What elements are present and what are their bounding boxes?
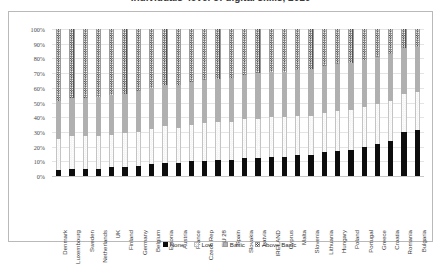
bar-column[interactable] bbox=[56, 29, 61, 176]
bar-segment-none[interactable] bbox=[322, 152, 327, 176]
bar-segment-basic[interactable] bbox=[215, 79, 220, 122]
bar-segment-none[interactable] bbox=[215, 160, 220, 176]
bar-column[interactable] bbox=[189, 29, 194, 176]
bar-segment-above-basic[interactable] bbox=[415, 29, 420, 47]
bar-segment-low[interactable] bbox=[162, 126, 167, 163]
bar-column[interactable] bbox=[242, 29, 247, 176]
bar-column[interactable] bbox=[335, 29, 340, 176]
bar-segment-basic[interactable] bbox=[415, 47, 420, 93]
bar-segment-low[interactable] bbox=[136, 132, 141, 166]
bar-column[interactable] bbox=[255, 29, 260, 176]
bar-segment-basic[interactable] bbox=[202, 80, 207, 123]
bar-segment-above-basic[interactable] bbox=[136, 29, 141, 91]
bar-segment-basic[interactable] bbox=[162, 85, 167, 126]
bar-segment-basic[interactable] bbox=[189, 82, 194, 125]
bar-column[interactable] bbox=[375, 29, 380, 176]
legend-item-basic[interactable]: Basic bbox=[223, 241, 245, 248]
bar-segment-none[interactable] bbox=[242, 158, 247, 176]
bar-segment-low[interactable] bbox=[348, 110, 353, 150]
bar-segment-above-basic[interactable] bbox=[362, 29, 367, 60]
bar-segment-low[interactable] bbox=[242, 119, 247, 159]
bar-segment-low[interactable] bbox=[295, 116, 300, 156]
bar-segment-none[interactable] bbox=[282, 157, 287, 176]
bar-segment-none[interactable] bbox=[375, 144, 380, 176]
bar-segment-low[interactable] bbox=[56, 139, 61, 170]
bar-segment-basic[interactable] bbox=[96, 97, 101, 137]
bar-segment-above-basic[interactable] bbox=[242, 29, 247, 75]
bar-segment-low[interactable] bbox=[69, 136, 74, 168]
bar-segment-low[interactable] bbox=[109, 135, 114, 167]
bar-segment-low[interactable] bbox=[282, 117, 287, 157]
bar-column[interactable] bbox=[176, 29, 181, 176]
bar-segment-low[interactable] bbox=[149, 129, 154, 164]
stacked-bar[interactable] bbox=[322, 29, 327, 176]
bar-segment-basic[interactable] bbox=[149, 88, 154, 129]
bar-segment-none[interactable] bbox=[83, 169, 88, 176]
bar-segment-low[interactable] bbox=[388, 101, 393, 141]
bar-column[interactable] bbox=[69, 29, 74, 176]
bar-segment-none[interactable] bbox=[136, 166, 141, 176]
bar-segment-none[interactable] bbox=[149, 164, 154, 176]
stacked-bar[interactable] bbox=[149, 29, 154, 176]
bar-segment-basic[interactable] bbox=[375, 57, 380, 104]
bar-segment-low[interactable] bbox=[308, 116, 313, 156]
bar-segment-above-basic[interactable] bbox=[282, 29, 287, 72]
stacked-bar[interactable] bbox=[202, 29, 207, 176]
stacked-bar[interactable] bbox=[415, 29, 420, 176]
bar-segment-none[interactable] bbox=[269, 157, 274, 176]
bar-column[interactable] bbox=[229, 29, 234, 176]
bar-segment-low[interactable] bbox=[322, 113, 327, 153]
bar-segment-basic[interactable] bbox=[335, 64, 340, 111]
bar-segment-above-basic[interactable] bbox=[162, 29, 167, 85]
legend-item-none[interactable]: None bbox=[163, 241, 185, 248]
stacked-bar[interactable] bbox=[162, 29, 167, 176]
bar-column[interactable] bbox=[202, 29, 207, 176]
bar-column[interactable] bbox=[322, 29, 327, 176]
bar-segment-none[interactable] bbox=[308, 155, 313, 176]
bar-column[interactable] bbox=[149, 29, 154, 176]
bar-column[interactable] bbox=[269, 29, 274, 176]
bar-column[interactable] bbox=[83, 29, 88, 176]
stacked-bar[interactable] bbox=[136, 29, 141, 176]
stacked-bar[interactable] bbox=[176, 29, 181, 176]
bar-segment-basic[interactable] bbox=[295, 70, 300, 116]
bar-segment-low[interactable] bbox=[362, 107, 367, 147]
bar-column[interactable] bbox=[282, 29, 287, 176]
bar-segment-low[interactable] bbox=[176, 128, 181, 163]
stacked-bar[interactable] bbox=[215, 29, 220, 176]
stacked-bar[interactable] bbox=[255, 29, 260, 176]
bar-segment-none[interactable] bbox=[69, 169, 74, 176]
bar-segment-basic[interactable] bbox=[269, 72, 274, 118]
bar-column[interactable] bbox=[109, 29, 114, 176]
stacked-bar[interactable] bbox=[308, 29, 313, 176]
bar-segment-above-basic[interactable] bbox=[348, 29, 353, 63]
bar-segment-none[interactable] bbox=[189, 161, 194, 176]
bar-segment-low[interactable] bbox=[255, 119, 260, 159]
stacked-bar[interactable] bbox=[56, 29, 61, 176]
bar-segment-low[interactable] bbox=[215, 122, 220, 160]
stacked-bar[interactable] bbox=[388, 29, 393, 176]
bar-segment-above-basic[interactable] bbox=[229, 29, 234, 78]
bar-segment-basic[interactable] bbox=[282, 72, 287, 118]
bar-segment-above-basic[interactable] bbox=[122, 29, 127, 94]
bar-segment-low[interactable] bbox=[375, 104, 380, 144]
bar-segment-above-basic[interactable] bbox=[269, 29, 274, 72]
bar-segment-low[interactable] bbox=[269, 117, 274, 157]
bar-column[interactable] bbox=[136, 29, 141, 176]
bar-segment-low[interactable] bbox=[335, 111, 340, 151]
bar-segment-above-basic[interactable] bbox=[96, 29, 101, 97]
bar-segment-basic[interactable] bbox=[229, 78, 234, 122]
bar-segment-above-basic[interactable] bbox=[202, 29, 207, 80]
bar-segment-none[interactable] bbox=[401, 132, 406, 176]
stacked-bar[interactable] bbox=[189, 29, 194, 176]
bar-segment-none[interactable] bbox=[388, 141, 393, 176]
legend-item-above-basic[interactable]: Above Basic bbox=[255, 241, 296, 248]
bar-segment-above-basic[interactable] bbox=[295, 29, 300, 70]
stacked-bar[interactable] bbox=[83, 29, 88, 176]
bar-segment-above-basic[interactable] bbox=[109, 29, 114, 95]
bar-segment-low[interactable] bbox=[202, 123, 207, 161]
bar-segment-none[interactable] bbox=[176, 163, 181, 176]
stacked-bar[interactable] bbox=[348, 29, 353, 176]
bar-column[interactable] bbox=[122, 29, 127, 176]
bar-segment-low[interactable] bbox=[96, 136, 101, 168]
